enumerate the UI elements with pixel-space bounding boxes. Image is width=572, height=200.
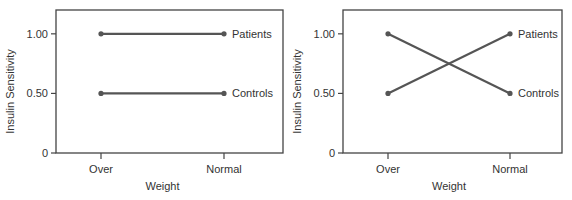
data-point xyxy=(507,31,512,36)
x-tick-label: Normal xyxy=(206,163,241,175)
x-tick-label: Normal xyxy=(492,163,527,175)
data-point xyxy=(507,91,512,96)
chart-panel-right: 00.501.00OverNormalWeightInsulin Sensiti… xyxy=(287,0,572,200)
series-patients: Patients xyxy=(98,28,272,40)
y-axis-title: Insulin Sensitivity xyxy=(291,49,303,134)
data-point xyxy=(221,31,226,36)
line-chart-left: 00.501.00OverNormalWeightInsulin Sensiti… xyxy=(0,0,290,200)
data-point xyxy=(385,31,390,36)
x-axis-title: Weight xyxy=(432,180,466,192)
y-tick-label: 1.00 xyxy=(314,28,335,40)
x-tick-label: Over xyxy=(376,163,400,175)
x-axis-title: Weight xyxy=(145,180,179,192)
data-point xyxy=(385,91,390,96)
chart-panel-left: 00.501.00OverNormalWeightInsulin Sensiti… xyxy=(0,0,290,200)
series-label: Controls xyxy=(232,87,273,99)
y-tick-label: 0.50 xyxy=(27,87,48,99)
series-label: Controls xyxy=(518,87,559,99)
y-axis-title: Insulin Sensitivity xyxy=(4,49,16,134)
y-tick-label: 0 xyxy=(329,147,335,159)
series-label: Patients xyxy=(232,28,272,40)
x-tick-label: Over xyxy=(89,163,113,175)
series-controls: Controls xyxy=(98,87,273,99)
y-tick-label: 0.50 xyxy=(314,87,335,99)
series-label: Patients xyxy=(518,28,558,40)
data-point xyxy=(98,31,103,36)
y-tick-label: 1.00 xyxy=(27,28,48,40)
data-point xyxy=(221,91,226,96)
series-patients: Patients xyxy=(385,28,558,96)
line-chart-right: 00.501.00OverNormalWeightInsulin Sensiti… xyxy=(287,0,572,200)
y-tick-label: 0 xyxy=(42,147,48,159)
data-point xyxy=(98,91,103,96)
series-controls: Controls xyxy=(385,31,559,99)
